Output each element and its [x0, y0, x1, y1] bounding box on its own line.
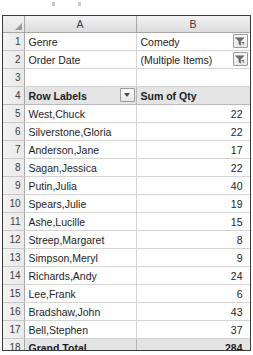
table-row: 2Order Date(Multiple Items)	[3, 51, 250, 69]
table-row: 9Putin,Julia40	[3, 177, 250, 195]
cell-b[interactable]: Comedy	[136, 33, 250, 51]
scan-artifact-right	[78, 2, 81, 6]
cell-b[interactable]: 19	[136, 195, 250, 213]
cell-a[interactable]: Row Labels	[24, 87, 136, 105]
cell-b[interactable]: 37	[136, 321, 250, 339]
table-row: 7Anderson,Jane17	[3, 141, 250, 159]
row-header-number[interactable]: 7	[3, 141, 24, 159]
row-header-number[interactable]: 17	[3, 321, 24, 339]
scan-artifact-left	[52, 2, 55, 6]
table-row: 1GenreComedy	[3, 33, 250, 51]
row-header-number[interactable]: 8	[3, 159, 24, 177]
chevron-down-icon	[124, 93, 130, 97]
cell-a[interactable]: Anderson,Jane	[24, 141, 136, 159]
cell-a-label: Row Labels	[29, 90, 87, 102]
cell-b[interactable]: 15	[136, 213, 250, 231]
cell-b[interactable]: 9	[136, 249, 250, 267]
cell-b[interactable]: 22	[136, 123, 250, 141]
row-header-number[interactable]: 14	[3, 267, 24, 285]
cell-b[interactable]: 22	[136, 159, 250, 177]
cell-b[interactable]: 6	[136, 285, 250, 303]
cell-a[interactable]: Order Date	[24, 51, 136, 69]
cell-b[interactable]: 22	[136, 105, 250, 123]
cell-a[interactable]: Lee,Frank	[24, 285, 136, 303]
column-header-a[interactable]: A	[24, 16, 136, 33]
table-row: 14Richards,Andy24	[3, 267, 250, 285]
table-row: 5West,Chuck22	[3, 105, 250, 123]
table-row: 13Simpson,Meryl9	[3, 249, 250, 267]
table-row: 8Sagan,Jessica22	[3, 159, 250, 177]
cell-a[interactable]: Putin,Julia	[24, 177, 136, 195]
cell-a[interactable]: Simpson,Meryl	[24, 249, 136, 267]
row-header-number[interactable]: 5	[3, 105, 24, 123]
cell-a[interactable]	[24, 69, 136, 87]
table-row: 15Lee,Frank6	[3, 285, 250, 303]
pivot-table: A B 1GenreComedy2Order Date(Multiple Ite…	[3, 16, 251, 351]
cell-b-label: Comedy	[141, 36, 180, 48]
select-all-triangle-icon	[15, 23, 22, 30]
table-row: 11Ashe,Lucille15	[3, 213, 250, 231]
cell-a[interactable]: Sagan,Jessica	[24, 159, 136, 177]
cell-a[interactable]: West,Chuck	[24, 105, 136, 123]
cell-b[interactable]	[136, 69, 250, 87]
row-header-number[interactable]: 6	[3, 123, 24, 141]
row-header-number[interactable]: 9	[3, 177, 24, 195]
cell-b[interactable]: 43	[136, 303, 250, 321]
filter-funnel-icon	[235, 37, 245, 46]
row-header-number[interactable]: 16	[3, 303, 24, 321]
cell-b[interactable]: 284	[136, 339, 250, 352]
cell-b[interactable]: 17	[136, 141, 250, 159]
filter-button[interactable]	[233, 34, 248, 48]
cell-b[interactable]: 24	[136, 267, 250, 285]
table-row: 16Bradshaw,John43	[3, 303, 250, 321]
row-header-number[interactable]: 12	[3, 231, 24, 249]
row-header-number[interactable]: 10	[3, 195, 24, 213]
cell-a[interactable]: Bradshaw,John	[24, 303, 136, 321]
row-header-number[interactable]: 2	[3, 51, 24, 69]
cell-a[interactable]: Grand Total	[24, 339, 136, 352]
cell-b[interactable]: 40	[136, 177, 250, 195]
grid-body: 1GenreComedy2Order Date(Multiple Items)3…	[3, 33, 250, 352]
row-header-number[interactable]: 1	[3, 33, 24, 51]
spreadsheet-grid: A B 1GenreComedy2Order Date(Multiple Ite…	[2, 15, 251, 351]
cell-b-label: (Multiple Items)	[141, 54, 213, 66]
cell-a[interactable]: Bell,Stephen	[24, 321, 136, 339]
filter-funnel-icon	[235, 55, 245, 64]
cell-a[interactable]: Richards,Andy	[24, 267, 136, 285]
column-header-b[interactable]: B	[136, 16, 250, 33]
cell-b[interactable]: Sum of Qty	[136, 87, 250, 105]
row-header-number[interactable]: 13	[3, 249, 24, 267]
table-row: 10Spears,Julie19	[3, 195, 250, 213]
filter-button[interactable]	[233, 52, 248, 66]
table-row: 18Grand Total284	[3, 339, 250, 352]
row-header-number[interactable]: 11	[3, 213, 24, 231]
table-row: 12Streep,Margaret8	[3, 231, 250, 249]
column-header-row: A B	[3, 16, 250, 33]
table-row: 6Silverstone,Gloria22	[3, 123, 250, 141]
select-all-corner[interactable]	[3, 16, 24, 33]
cell-a[interactable]: Streep,Margaret	[24, 231, 136, 249]
cell-a[interactable]: Genre	[24, 33, 136, 51]
row-header-number[interactable]: 18	[3, 339, 24, 352]
row-labels-dropdown-button[interactable]	[120, 88, 135, 102]
table-row: 3	[3, 69, 250, 87]
row-header-number[interactable]: 3	[3, 69, 24, 87]
cell-b[interactable]: (Multiple Items)	[136, 51, 250, 69]
cell-a[interactable]: Ashe,Lucille	[24, 213, 136, 231]
cell-a[interactable]: Spears,Julie	[24, 195, 136, 213]
cell-a[interactable]: Silverstone,Gloria	[24, 123, 136, 141]
cell-b[interactable]: 8	[136, 231, 250, 249]
row-header-number[interactable]: 4	[3, 87, 24, 105]
row-header-number[interactable]: 15	[3, 285, 24, 303]
table-row: 4Row LabelsSum of Qty	[3, 87, 250, 105]
table-row: 17Bell,Stephen37	[3, 321, 250, 339]
